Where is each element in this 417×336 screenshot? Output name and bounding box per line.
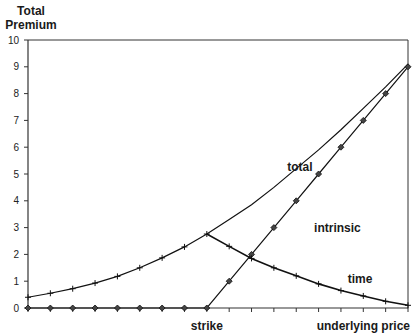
y-tick-label: 2 [13,249,19,260]
annotation-intrinsic: intrinsic [314,221,361,235]
y-tick-label: 8 [13,88,19,99]
time-line [207,234,408,305]
x-tick-label-strike: strike [191,319,223,333]
y-tick-label: 9 [13,61,19,72]
y-tick-label: 0 [13,303,19,314]
diamond-marker [47,305,53,311]
diamond-marker [70,305,76,311]
total-line [28,64,408,297]
diamond-marker [181,305,187,311]
annotation-time: time [348,272,373,286]
chart-annotations: totalintrinsictime [287,160,372,285]
diamond-marker [159,305,165,311]
diamond-marker [25,305,31,311]
y-tick-label: 5 [13,169,19,180]
diamond-marker [137,305,143,311]
series-total [25,64,408,300]
diamond-marker [114,305,120,311]
y-tick-label: 7 [13,115,19,126]
annotation-total: total [287,160,312,174]
y-tick-label: 3 [13,222,19,233]
premium-chart: 012345678910strikeunderlying price total… [0,0,417,336]
y-tick-label: 4 [13,195,19,206]
y-tick-label: 1 [13,276,19,287]
y-tick-label: 6 [13,142,19,153]
chart-axes: 012345678910strikeunderlying price [8,35,410,334]
x-tick-label-underlying-price: underlying price [317,319,411,333]
diamond-marker [92,305,98,311]
y-tick-label: 10 [8,35,20,46]
